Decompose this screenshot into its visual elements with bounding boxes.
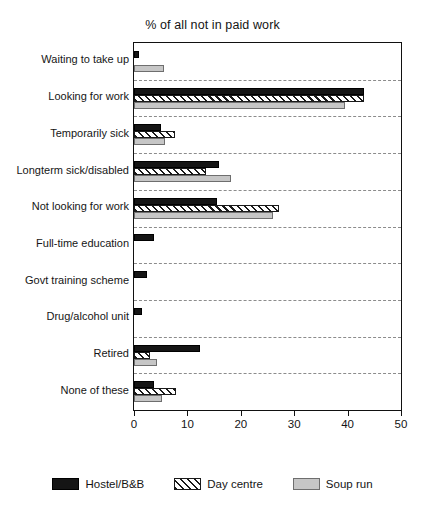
legend-swatch-icon (174, 478, 201, 490)
y-axis-tick-label: Looking for work (48, 90, 129, 102)
chart-legend: Hostel/B&BDay centreSoup run (0, 478, 425, 490)
x-axis-tick-label: 10 (181, 418, 194, 430)
y-axis-tick-label: Temporarily sick (50, 127, 129, 139)
x-axis-tick (401, 411, 402, 416)
legend-label: Soup run (326, 478, 373, 490)
x-axis-tick-label: 0 (131, 418, 137, 430)
chart-title: % of all not in paid work (0, 18, 425, 32)
x-axis-tick-label: 20 (234, 418, 247, 430)
y-axis-tick-label: Waiting to take up (41, 53, 129, 65)
y-axis-labels: Waiting to take upLooking for workTempor… (0, 42, 425, 411)
legend-swatch-icon (52, 478, 79, 490)
x-axis-tick (241, 411, 242, 416)
x-axis-tick (294, 411, 295, 416)
y-axis-tick-label: Longterm sick/disabled (16, 164, 129, 176)
x-axis-tick (348, 411, 349, 416)
y-axis-tick-label: Retired (94, 347, 129, 359)
legend-entry: Hostel/B&B (52, 478, 144, 490)
y-axis-tick-label: Govt training scheme (25, 274, 129, 286)
x-axis-tick-label: 50 (395, 418, 408, 430)
legend-label: Hostel/B&B (85, 478, 144, 490)
y-axis-tick-label: Not looking for work (32, 200, 129, 212)
y-axis-tick-label: Full-time education (36, 237, 129, 249)
y-axis-tick-label: None of these (61, 384, 130, 396)
x-axis: 01020304050 (133, 411, 402, 441)
x-axis-tick-label: 40 (341, 418, 354, 430)
legend-label: Day centre (207, 478, 263, 490)
legend-entry: Soup run (293, 478, 373, 490)
legend-entry: Day centre (174, 478, 263, 490)
x-axis-tick (134, 411, 135, 416)
y-axis-tick-label: Drug/alcohol unit (46, 310, 129, 322)
legend-swatch-icon (293, 478, 320, 490)
x-axis-tick-label: 30 (288, 418, 301, 430)
x-axis-tick (187, 411, 188, 416)
bar-chart: % of all not in paid work Waiting to tak… (0, 0, 425, 518)
